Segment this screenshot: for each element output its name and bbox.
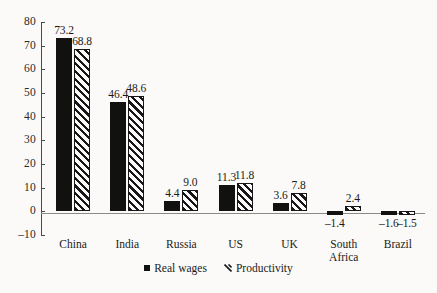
bar-value-label: –1.5 (392, 218, 422, 229)
bar-russia-real-wages (164, 201, 180, 211)
y-axis-tick-mark (41, 211, 45, 212)
y-axis: 80706050403020100–10 (0, 0, 41, 293)
chart-legend: Real wages Productivity (0, 262, 437, 274)
bar-brazil-real-wages (381, 211, 397, 215)
legend-item-real-wages: Real wages (144, 262, 207, 274)
bar-south-africa-real-wages (327, 211, 343, 214)
y-axis-tick-mark (41, 93, 45, 94)
bar-china-real-wages (56, 38, 72, 211)
bar-chart: 80706050403020100–10 Real wages Producti… (0, 0, 437, 293)
hatched-square-marker-icon (224, 264, 232, 272)
y-axis-tick-mark (41, 22, 45, 23)
bar-value-label: 48.6 (121, 83, 151, 94)
bar-india-productivity (128, 96, 144, 211)
y-axis-tick-label: 80 (6, 16, 36, 27)
bar-russia-productivity (182, 190, 198, 211)
bar-brazil-productivity (399, 211, 415, 215)
x-axis-category-label: Brazil (371, 238, 425, 251)
bar-value-label: 9.0 (175, 177, 205, 188)
y-axis-tick-mark (41, 164, 45, 165)
bar-india-real-wages (110, 102, 126, 212)
bar-uk-productivity (291, 193, 307, 211)
x-axis-category-label: Africa (317, 251, 371, 264)
bar-value-label: 68.8 (67, 36, 97, 47)
y-axis-tick-label: 10 (6, 182, 36, 193)
bar-us-real-wages (219, 185, 235, 212)
y-axis-tick-mark (41, 69, 45, 70)
y-axis-tick-label: 20 (6, 158, 36, 169)
y-axis-tick-mark (41, 117, 45, 118)
y-axis-tick-label: 0 (6, 205, 36, 216)
y-axis-tick-mark (41, 140, 45, 141)
x-axis-category-label: US (208, 238, 262, 251)
y-axis-tick-mark (41, 46, 45, 47)
solid-square-marker-icon (144, 265, 150, 271)
y-axis-tick-label: 30 (6, 134, 36, 145)
legend-label-productivity: Productivity (236, 262, 293, 274)
bar-value-label: 11.8 (230, 170, 260, 181)
x-axis-category-label: South (317, 238, 371, 251)
bar-value-label: 2.4 (338, 193, 368, 204)
x-axis-category-label: UK (263, 238, 317, 251)
bar-value-label: –1.4 (320, 218, 350, 229)
y-axis-tick-mark (41, 235, 45, 236)
bar-us-productivity (237, 183, 253, 211)
y-axis-tick-label: 60 (6, 63, 36, 74)
y-axis-tick-label: 70 (6, 40, 36, 51)
y-axis-tick-label: –10 (6, 229, 36, 240)
legend-item-productivity: Productivity (224, 262, 293, 274)
y-axis-tick-label: 50 (6, 87, 36, 98)
bar-south-africa-productivity (345, 206, 361, 212)
x-axis-category-label: China (46, 238, 100, 251)
y-axis-tick-label: 40 (6, 111, 36, 122)
bar-value-label: 7.8 (284, 180, 314, 191)
x-axis-category-label: India (100, 238, 154, 251)
x-axis-category-label: Russia (154, 238, 208, 251)
y-axis-tick-mark (41, 188, 45, 189)
legend-label-real-wages: Real wages (154, 262, 207, 274)
bar-uk-real-wages (273, 203, 289, 212)
bar-china-productivity (74, 49, 90, 212)
